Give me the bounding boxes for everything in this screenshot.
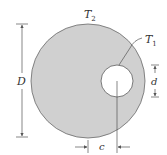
eccentric-cylinder-diagram: T2 T1 D d c [0, 0, 167, 155]
inner-temperature-label: T1 [145, 33, 157, 48]
outer-temperature-label: T2 [84, 8, 96, 23]
outer-diameter-label: D [16, 75, 26, 88]
inner-diameter-label: d [151, 76, 157, 87]
eccentricity-label: c [99, 141, 105, 152]
